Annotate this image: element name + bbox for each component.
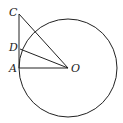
segment-do	[20, 49, 68, 68]
geometry-diagram: C D A O	[0, 0, 123, 123]
label-a: A	[8, 62, 17, 75]
diagram-canvas: C D A O	[0, 0, 123, 123]
label-d: D	[8, 41, 18, 54]
segment-co	[19, 14, 68, 68]
label-c: C	[9, 6, 18, 19]
label-o: O	[71, 62, 80, 75]
